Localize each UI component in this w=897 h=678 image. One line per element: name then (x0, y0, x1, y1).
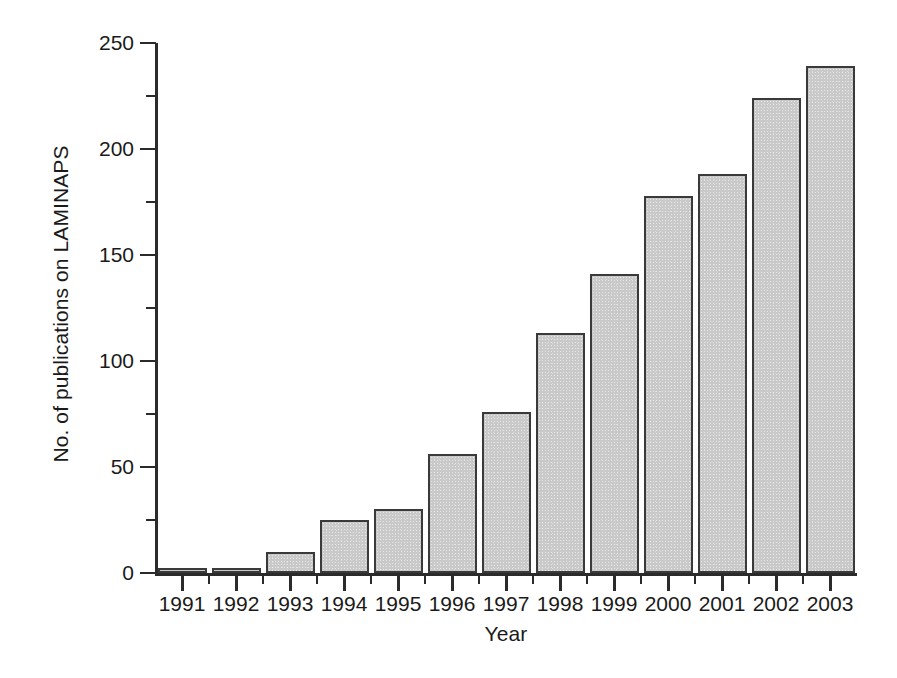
bar (536, 333, 585, 573)
bar (752, 98, 801, 573)
bar-chart-figure: No. of publications on LAMINAPS 05010015… (0, 0, 897, 678)
y-tick-label: 100 (14, 350, 134, 371)
x-tick-major (667, 574, 670, 591)
bar (590, 274, 639, 573)
x-axis-title: Year (155, 622, 857, 646)
bar (644, 196, 693, 573)
x-tick-minor (316, 574, 318, 584)
x-tick-minor (208, 574, 210, 584)
y-tick-major (140, 42, 156, 44)
bar (806, 66, 855, 573)
x-tick-minor (532, 574, 534, 584)
y-tick-major (140, 572, 156, 574)
y-tick-minor (146, 201, 156, 203)
y-tick-minor (146, 95, 156, 97)
bar (428, 454, 477, 573)
bar (320, 520, 369, 573)
y-tick-label: 200 (14, 138, 134, 159)
x-tick-major (505, 574, 508, 591)
x-tick-major (451, 574, 454, 591)
x-tick-major (181, 574, 184, 591)
bar (266, 552, 315, 573)
y-tick-label: 150 (14, 244, 134, 265)
y-tick-minor (146, 413, 156, 415)
x-tick-minor (640, 574, 642, 584)
y-tick-label: 250 (14, 32, 134, 53)
y-tick-major (140, 360, 156, 362)
x-tick-minor (424, 574, 426, 584)
x-tick-major (397, 574, 400, 591)
x-tick-minor (586, 574, 588, 584)
x-tick-minor (478, 574, 480, 584)
x-tick-minor (694, 574, 696, 584)
x-tick-minor (370, 574, 372, 584)
x-tick-minor (262, 574, 264, 584)
x-tick-major (613, 574, 616, 591)
x-tick-major (721, 574, 724, 591)
x-tick-major (775, 574, 778, 591)
y-tick-minor (146, 307, 156, 309)
x-tick-minor (802, 574, 804, 584)
y-axis-line (155, 43, 158, 576)
x-tick-label: 2003 (785, 591, 875, 617)
x-tick-major (343, 574, 346, 591)
bar (374, 509, 423, 573)
x-tick-major (289, 574, 292, 591)
y-axis-title: No. of publications on LAMINAPS (44, 24, 78, 584)
x-tick-minor (748, 574, 750, 584)
bar (698, 174, 747, 573)
x-tick-major (235, 574, 238, 591)
y-tick-major (140, 466, 156, 468)
x-tick-major (829, 574, 832, 591)
y-tick-major (140, 148, 156, 150)
bar (158, 568, 207, 573)
y-tick-major (140, 254, 156, 256)
y-tick-label: 0 (14, 562, 134, 583)
y-tick-label: 50 (14, 456, 134, 477)
bar (482, 412, 531, 573)
x-tick-major (559, 574, 562, 591)
bar (212, 568, 261, 573)
y-tick-minor (146, 519, 156, 521)
